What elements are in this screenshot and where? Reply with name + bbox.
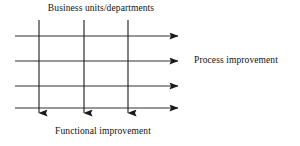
diagram-figure: Business units/departments Process impro… [0,0,300,146]
functional-improvement-label: Functional improvement [0,126,206,137]
diagram-canvas [0,0,300,146]
business-units-label: Business units/departments [0,3,202,14]
process-improvement-label: Process improvement [194,55,278,66]
vertical-arrow-group [39,20,128,113]
